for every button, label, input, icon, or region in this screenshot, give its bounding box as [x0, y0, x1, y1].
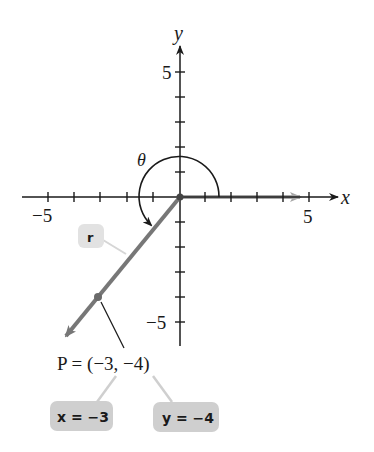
point-p-label: P = (−3, −4)	[57, 353, 150, 375]
x-tick-label-neg5: −5	[32, 205, 52, 226]
x-callout-leader	[97, 376, 116, 402]
r-label: r	[87, 230, 94, 245]
theta-label: θ	[137, 150, 146, 170]
x-tick-label-5: 5	[303, 206, 313, 227]
y-axis-label: y	[172, 22, 183, 45]
y-value-label: y = −4	[162, 410, 214, 426]
coordinate-diagram: −5 5 5 −5 x y θ r P = (−3, −4) x = −3 y …	[0, 0, 374, 452]
y-tick-label-neg5: −5	[146, 312, 166, 333]
x-value-label: x = −3	[57, 409, 109, 425]
y-tick-label-5: 5	[162, 62, 172, 83]
origin-dot	[177, 194, 184, 201]
x-axis-label: x	[340, 186, 350, 208]
p-leader	[101, 302, 124, 348]
r-leader	[103, 240, 126, 254]
theta-arc	[139, 156, 219, 225]
y-callout-leader	[153, 376, 172, 402]
point-p	[94, 293, 102, 301]
